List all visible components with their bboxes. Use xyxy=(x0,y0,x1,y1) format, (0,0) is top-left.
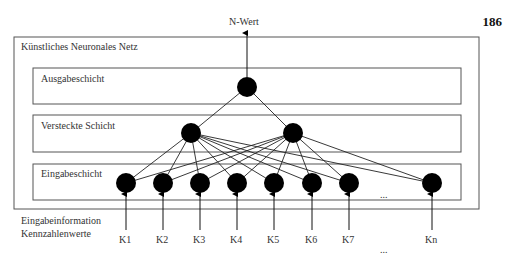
input-info-line2: Kennzahlenwerte xyxy=(21,229,91,239)
input-node xyxy=(302,173,322,193)
input-node xyxy=(190,173,210,193)
input-variable-label: K1 xyxy=(119,235,131,245)
output-value-label: N-Wert xyxy=(229,17,259,27)
input-node xyxy=(339,173,359,193)
input-variable-label: K3 xyxy=(193,235,205,245)
input-node xyxy=(227,173,247,193)
bottom-ellipsis: ... xyxy=(380,245,388,255)
hidden-output-edge xyxy=(191,87,247,133)
input-info-line1: Eingabeinformation xyxy=(21,216,101,226)
input-node xyxy=(116,173,136,193)
network-title: Künstliches Neuronales Netz xyxy=(21,42,138,52)
input-ellipsis: ... xyxy=(380,190,388,200)
hidden-node xyxy=(283,123,303,143)
input-variable-label: K4 xyxy=(230,235,242,245)
input-hidden-edge xyxy=(293,133,349,183)
output-layer-label: Ausgabeschicht xyxy=(41,74,104,84)
input-node xyxy=(264,173,284,193)
output-node xyxy=(237,77,257,97)
input-layer-label: Eingabeschicht xyxy=(41,169,102,179)
hidden-node xyxy=(181,123,201,143)
input-variable-label: K7 xyxy=(342,235,354,245)
hidden-layer-label: Versteckte Schicht xyxy=(41,121,115,131)
input-node xyxy=(422,173,442,193)
input-variable-label: K6 xyxy=(305,235,317,245)
input-node xyxy=(153,173,173,193)
input-variable-label: K5 xyxy=(267,235,279,245)
input-variable-label: Kn xyxy=(425,235,437,245)
input-variable-label: K2 xyxy=(156,235,168,245)
input-hidden-edge xyxy=(237,133,293,183)
